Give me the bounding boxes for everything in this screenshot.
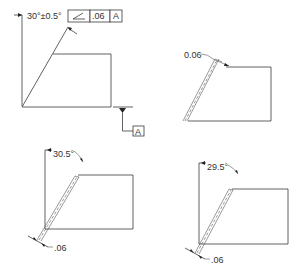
- fcf-tolerance: .06: [92, 11, 105, 21]
- datum-feature-symbol: A: [113, 107, 144, 137]
- tolerance-zone-line: [37, 176, 75, 240]
- figure-top-left: 30°±0.5° .06 A A: [14, 10, 144, 137]
- part-outline: [188, 67, 271, 121]
- zone-dimension: [185, 248, 205, 259]
- part-outline: [45, 175, 133, 229]
- zone-label: .06: [54, 243, 67, 253]
- zone-dimension: [28, 236, 48, 247]
- figure-bottom-left: 30.5° .06: [28, 148, 133, 253]
- angle-label: 30°±0.5°: [27, 11, 62, 21]
- figure-top-right: 0.06: [183, 50, 271, 121]
- zone-label: .06: [211, 255, 224, 265]
- angle-label: 30.5°: [53, 149, 75, 159]
- angled-surface: [22, 27, 68, 107]
- fcf-datum: A: [113, 11, 119, 21]
- feature-control-frame: .06 A: [68, 10, 122, 22]
- angularity-diagram: 30°±0.5° .06 A A 0.06: [0, 0, 303, 273]
- part-outline: [22, 54, 111, 107]
- figure-bottom-right: 29.5° .06: [185, 161, 288, 265]
- tolerance-zone-line: [195, 189, 229, 253]
- arrow-icon: [201, 161, 205, 165]
- arrow-icon: [18, 13, 22, 17]
- angle-label: 29.5°: [207, 162, 229, 172]
- tolerance-zone-line: [183, 59, 215, 121]
- zone-label: 0.06: [184, 50, 202, 60]
- part-outline: [199, 189, 288, 244]
- arrow-icon: [47, 148, 51, 152]
- datum-label: A: [135, 127, 141, 137]
